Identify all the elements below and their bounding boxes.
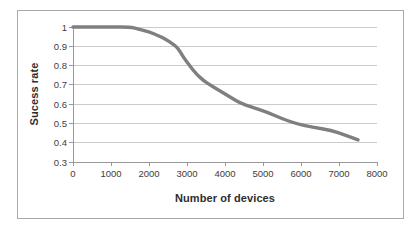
y-tick-label: 0.7 — [34, 78, 67, 91]
y-tick-label: 0.4 — [34, 136, 67, 149]
y-tick-label: 0.9 — [34, 40, 67, 53]
x-tick-label: 4000 — [204, 167, 246, 180]
y-tick-label: 0.5 — [34, 117, 67, 130]
page: { "chart_data": { "type": "line", "title… — [0, 0, 419, 233]
x-tick-label: 2000 — [128, 167, 170, 180]
success-rate-curve — [73, 27, 358, 140]
y-tick-label: 1 — [34, 21, 67, 34]
chart-figure: Sucess rate Number of devices 10.90.80.7… — [0, 0, 419, 233]
y-tick-label: 0.6 — [34, 98, 67, 111]
x-tick-label: 0 — [52, 167, 94, 180]
x-tick-label: 5000 — [242, 167, 284, 180]
x-tick-label: 3000 — [166, 167, 208, 180]
x-tick-label: 6000 — [280, 167, 322, 180]
x-tick-label: 1000 — [90, 167, 132, 180]
x-tick-label: 8000 — [356, 167, 398, 180]
y-tick-label: 0.8 — [34, 59, 67, 72]
x-tick-label: 7000 — [318, 167, 360, 180]
